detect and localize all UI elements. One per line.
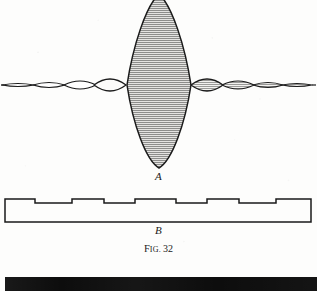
lobe-left-4 xyxy=(2,84,34,87)
lobe-left-3 xyxy=(33,83,65,88)
panel-b-stepped-plate xyxy=(5,199,311,222)
lobe-left-1 xyxy=(94,79,126,91)
scan-edge-black-bar xyxy=(5,277,317,291)
plate-outline xyxy=(5,199,311,222)
panel-a-wave-diagram xyxy=(1,0,316,168)
lobe-right-2 xyxy=(222,81,254,89)
lobe-right-3 xyxy=(253,83,283,88)
lobe-central-principal xyxy=(127,0,191,168)
lobe-left-2 xyxy=(64,81,96,89)
panel-b-label: B xyxy=(0,224,317,236)
lobe-right-4 xyxy=(282,84,312,87)
figure-caption: FIG.32 xyxy=(0,243,317,254)
panel-a-label: A xyxy=(0,170,317,182)
scan-edge-shading xyxy=(5,277,317,291)
caption-number: 32 xyxy=(163,243,173,254)
caption-smallcaps: IG. xyxy=(150,245,161,254)
lobe-right-1 xyxy=(191,79,223,91)
figure-page: A B FIG.32 xyxy=(0,0,317,291)
